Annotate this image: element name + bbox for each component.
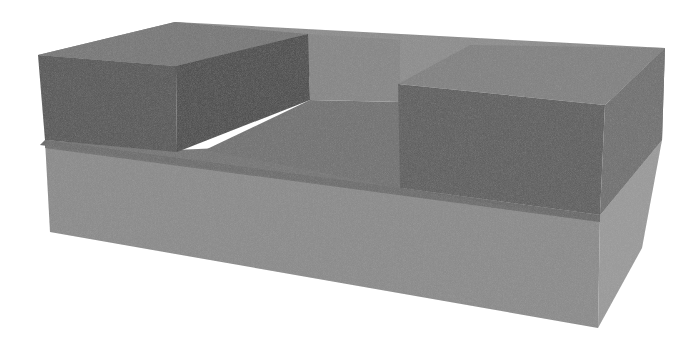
middle-layer-back-wall [308, 34, 400, 102]
left-block-front-face [38, 55, 177, 152]
layered-block-diagram [0, 0, 690, 353]
